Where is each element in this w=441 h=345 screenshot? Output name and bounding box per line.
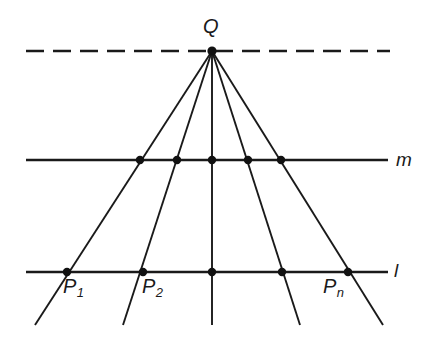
intersection-dot-m-2 bbox=[173, 156, 181, 164]
intersection-dot-l-3 bbox=[208, 268, 216, 276]
ray-5 bbox=[212, 51, 383, 325]
ray-2 bbox=[123, 51, 212, 325]
label-line-m: m bbox=[396, 150, 412, 169]
label-point-p2: P2 bbox=[142, 276, 163, 299]
label-point-p1-subscript: 1 bbox=[76, 285, 84, 300]
label-point-p2-subscript: 2 bbox=[155, 285, 163, 300]
label-vertex-q: Q bbox=[203, 16, 219, 36]
vertex-point-q bbox=[207, 46, 216, 55]
label-point-pn-base: P bbox=[323, 275, 336, 297]
label-point-pn: Pn bbox=[323, 276, 344, 299]
geometry-figure: Q m l P1 P2 Pn bbox=[0, 0, 441, 345]
intersection-dot-m-5 bbox=[277, 156, 285, 164]
intersection-dot-l-5 bbox=[344, 268, 352, 276]
intersection-dot-m-3 bbox=[208, 156, 216, 164]
intersection-dot-l-4 bbox=[278, 268, 286, 276]
label-point-pn-subscript: n bbox=[336, 285, 344, 300]
ray-1 bbox=[35, 51, 212, 325]
label-line-l: l bbox=[394, 261, 398, 280]
label-point-p1: P1 bbox=[63, 276, 84, 299]
label-point-p1-base: P bbox=[63, 275, 76, 297]
label-point-p2-base: P bbox=[142, 275, 155, 297]
ray-4 bbox=[212, 51, 300, 325]
intersection-dot-m-4 bbox=[244, 156, 252, 164]
intersection-dot-m-1 bbox=[136, 156, 144, 164]
